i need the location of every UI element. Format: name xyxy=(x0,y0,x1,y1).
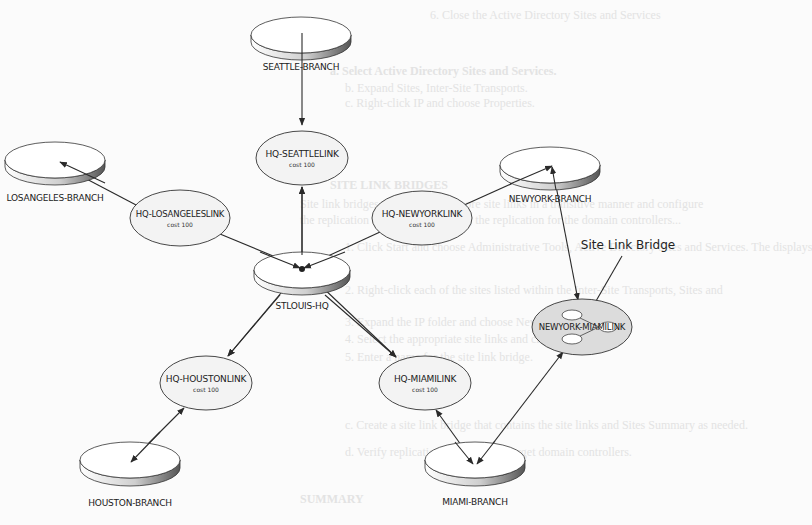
sitelink-cost: cost 100 xyxy=(193,386,219,393)
site-link-bridge-annotation: Site Link Bridge xyxy=(581,238,675,252)
site-label: NEWYORK-BRANCH xyxy=(509,194,592,204)
sitelink-hq-losangeleslink[interactable]: HQ-LOSANGELESLINK cost 100 xyxy=(130,190,230,246)
site-label: HOUSTON-BRANCH xyxy=(88,498,172,508)
sitelink-label: HQ-MIAMILINK xyxy=(394,374,458,384)
site-miami-branch[interactable]: MIAMI-BRANCH xyxy=(425,441,525,507)
sitelink-hq-seattlelink[interactable]: HQ-SEATTLELINK cost 100 xyxy=(256,131,348,185)
sitelink-label: HQ-HOUSTONLINK xyxy=(166,374,248,384)
site-label: MIAMI-BRANCH xyxy=(442,497,508,507)
sitelink-cost: cost 100 xyxy=(409,221,435,228)
sitelink-hq-newyorklink[interactable]: HQ-NEWYORKLINK cost 100 xyxy=(372,191,472,245)
site-losangeles-branch[interactable]: LOSANGELES-BRANCH xyxy=(5,142,105,203)
bridge-label: NEWYORK-MIAMILINK xyxy=(539,322,626,332)
site-seattle-branch[interactable]: SEATTLE-BRANCH xyxy=(251,17,351,72)
site-newyork-branch[interactable]: NEWYORK-BRANCH xyxy=(500,147,600,204)
sitelink-label: HQ-LOSANGELESLINK xyxy=(136,209,225,219)
site-houston-branch[interactable]: HOUSTON-BRANCH xyxy=(80,432,180,508)
sitelink-cost: cost 100 xyxy=(289,161,315,168)
sitelink-bridge-newyork-miamilink[interactable]: NEWYORK-MIAMILINK xyxy=(532,299,632,355)
sitelink-cost: cost 100 xyxy=(412,386,438,393)
hub-icon xyxy=(299,266,305,272)
site-label: STLOUIS-HQ xyxy=(275,301,328,311)
site-stlouis-hq[interactable]: STLOUIS-HQ xyxy=(228,187,396,357)
sitelink-hq-houstonlink[interactable]: HQ-HOUSTONLINK cost 100 xyxy=(160,356,252,410)
site-label: LOSANGELES-BRANCH xyxy=(6,193,103,203)
site-label: SEATTLE-BRANCH xyxy=(263,62,340,72)
sitelink-label: HQ-SEATTLELINK xyxy=(265,149,340,159)
annotation-leader-line xyxy=(596,256,622,301)
sitelink-label: HQ-NEWYORKLINK xyxy=(382,209,464,219)
connectors xyxy=(58,33,622,463)
sitelink-hq-miamilink[interactable]: HQ-MIAMILINK cost 100 xyxy=(379,356,471,410)
sitelink-cost: cost 100 xyxy=(167,221,193,228)
